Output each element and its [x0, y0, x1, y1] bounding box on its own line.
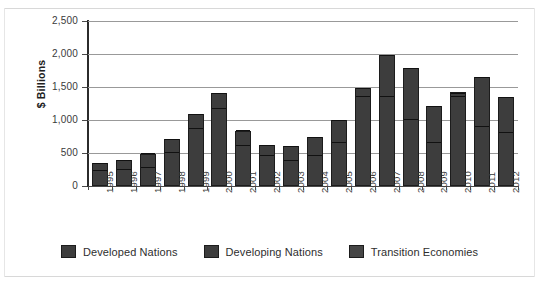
x-tick-mark-2010	[446, 186, 447, 190]
gridline-2000	[88, 54, 518, 55]
bar-segment-divider	[499, 132, 513, 133]
x-tick-mark-1997	[136, 186, 137, 190]
legend-item-1[interactable]: Developing Nations	[204, 245, 323, 258]
x-axis-label-1999: 1999	[200, 171, 211, 193]
x-tick-mark-2000	[207, 186, 208, 190]
bar-segment-divider	[189, 128, 203, 129]
chart-figure: $ Billions 05001,0001,5002,0002,500 Deve…	[0, 0, 539, 285]
bar-segment-divider	[356, 88, 370, 89]
bar-segment-divider	[475, 77, 489, 78]
x-axis-label-2009: 2009	[438, 171, 449, 193]
x-tick-mark-2007	[375, 186, 376, 190]
bar-segment-divider	[308, 155, 322, 156]
x-tick-mark-2004	[303, 186, 304, 190]
bar-segment-divider	[499, 97, 513, 98]
bar-segment-divider	[165, 152, 179, 153]
plot-area	[88, 21, 518, 186]
gridline-2500	[88, 21, 518, 22]
figure-left-edge	[4, 8, 5, 277]
figure-top-rule	[4, 8, 535, 9]
x-tick-mark-2002	[255, 186, 256, 190]
gridline-1500	[88, 87, 518, 88]
bar-segment-divider	[260, 145, 274, 146]
x-tick-mark-end	[518, 186, 519, 190]
y-tick-label-0: 0	[72, 181, 78, 191]
bar-segment-divider	[475, 126, 489, 127]
x-tick-mark-2005	[327, 186, 328, 190]
chart-legend: Developed NationsDeveloping NationsTrans…	[0, 245, 539, 258]
x-tick-mark-1999	[184, 186, 185, 190]
x-tick-mark-2001	[231, 186, 232, 190]
bar-segment-divider	[236, 145, 250, 146]
y-tick-mark-500	[82, 153, 87, 154]
bar-segment-divider	[284, 146, 298, 147]
x-axis-label-2001: 2001	[247, 171, 258, 193]
x-tick-mark-2009	[422, 186, 423, 190]
y-axis-tick-labels: 05001,0001,5002,0002,500	[30, 0, 78, 285]
figure-right-edge	[534, 8, 535, 277]
legend-label-0: Developed Nations	[83, 246, 178, 258]
y-tick-mark-1500	[82, 87, 87, 88]
bar-segment-divider	[356, 96, 370, 97]
bar-segment-divider	[380, 55, 394, 56]
x-tick-mark-2003	[279, 186, 280, 190]
y-tick-label-1500: 1,500	[52, 82, 78, 92]
y-tick-mark-2500	[82, 21, 87, 22]
bar-segment-divider	[380, 96, 394, 97]
bar-segment-divider	[284, 160, 298, 161]
legend-label-2: Transition Economies	[371, 246, 478, 258]
x-axis-label-2007: 2007	[391, 171, 402, 193]
x-axis-label-2011: 2011	[486, 172, 497, 193]
x-axis-label-1997: 1997	[152, 171, 163, 193]
x-tick-mark-1995	[88, 186, 89, 190]
bar-segment-divider	[141, 167, 155, 168]
bar-segment-divider	[332, 120, 346, 121]
bar-segment-divider	[404, 119, 418, 120]
legend-swatch-transition	[349, 245, 364, 258]
bar-2011[interactable]	[474, 77, 490, 186]
y-tick-label-2500: 2,500	[52, 16, 78, 26]
x-axis-label-2006: 2006	[367, 171, 378, 193]
bar-segment-divider	[427, 106, 441, 107]
legend-item-0[interactable]: Developed Nations	[61, 245, 178, 258]
x-tick-mark-2011	[470, 186, 471, 190]
bar-segment-divider	[427, 142, 441, 143]
x-axis-label-2000: 2000	[223, 171, 234, 193]
legend-swatch-developing	[204, 245, 219, 258]
bar-2008[interactable]	[403, 68, 419, 186]
y-tick-mark-2000	[82, 54, 87, 55]
bar-segment-divider	[212, 93, 226, 94]
y-tick-label-2000: 2,000	[52, 49, 78, 59]
x-tick-mark-2012	[494, 186, 495, 190]
bar-2007[interactable]	[379, 55, 395, 186]
bar-segment-divider	[236, 130, 250, 131]
bar-segment-divider	[404, 68, 418, 69]
x-axis-label-2002: 2002	[271, 171, 282, 193]
x-axis-label-2008: 2008	[415, 171, 426, 193]
figure-bottom-rule	[4, 276, 535, 277]
bar-segment-divider	[451, 93, 465, 94]
bar-segment-divider	[212, 108, 226, 109]
x-axis-label-2004: 2004	[319, 171, 330, 193]
bar-segment-divider	[260, 155, 274, 156]
x-axis-label-2010: 2010	[462, 171, 473, 193]
x-tick-mark-1998	[160, 186, 161, 190]
x-axis-label-1998: 1998	[176, 171, 187, 193]
y-tick-mark-1000	[82, 120, 87, 121]
bar-segment-divider	[332, 142, 346, 143]
y-tick-mark-0	[82, 186, 87, 187]
bar-segment-divider	[189, 114, 203, 115]
legend-item-2[interactable]: Transition Economies	[349, 245, 478, 258]
x-axis-label-2012: 2012	[510, 171, 521, 193]
bar-segment-divider	[141, 153, 155, 154]
y-tick-label-1000: 1,000	[52, 115, 78, 125]
bar-segment-divider	[451, 96, 465, 97]
x-tick-mark-1996	[112, 186, 113, 190]
x-tick-mark-2008	[399, 186, 400, 190]
x-axis-label-1995: 1995	[104, 171, 115, 193]
bar-segment-divider	[165, 139, 179, 140]
legend-label-1: Developing Nations	[226, 246, 323, 258]
bar-segment-divider	[117, 169, 131, 170]
legend-swatch-developed	[61, 245, 76, 258]
x-axis-label-2003: 2003	[295, 171, 306, 193]
